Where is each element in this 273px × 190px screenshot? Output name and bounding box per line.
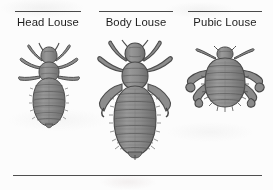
column-header-head-louse: Head Louse	[10, 11, 86, 29]
column-header-body-louse: Body Louse	[96, 11, 176, 29]
pubic-louse-illustration	[185, 45, 265, 117]
header-rule-pubic-louse	[188, 11, 262, 12]
lice-comparison-figure: Head Louse	[0, 0, 273, 190]
column-label-body-louse: Body Louse	[96, 16, 176, 29]
column-label-pubic-louse: Pubic Louse	[186, 16, 264, 29]
head-louse-illustration	[18, 41, 80, 131]
body-louse-illustration	[93, 39, 177, 163]
header-rule-head-louse	[15, 11, 81, 12]
column-header-pubic-louse: Pubic Louse	[186, 11, 264, 29]
column-label-head-louse: Head Louse	[10, 16, 86, 29]
header-rule-body-louse	[99, 11, 173, 12]
bottom-divider	[13, 175, 262, 176]
